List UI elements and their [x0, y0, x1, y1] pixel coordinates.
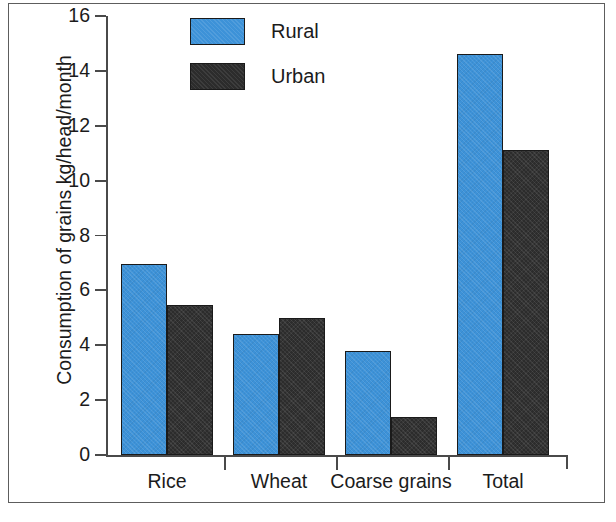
bar-rice-rural [121, 264, 167, 455]
y-axis-tick-mark [95, 454, 106, 456]
legend-swatch-rural [190, 18, 245, 45]
legend-item-urban: Urban [190, 58, 325, 94]
legend-item-rural: Rural [190, 13, 325, 49]
plot-area: 0246810121416 RiceWheatCoarse grainsTota… [0, 0, 616, 522]
legend-label-urban: Urban [271, 66, 325, 86]
x-axis-end-cap [566, 455, 568, 469]
bar-wheat-urban [279, 318, 325, 455]
x-axis-tick-mark [448, 456, 450, 470]
bar-total-rural [457, 54, 503, 455]
legend-swatch-urban [190, 63, 245, 90]
y-axis-tick-mark [95, 70, 106, 72]
y-axis-title: Consumption of grains kg/head/month [44, 0, 84, 440]
bar-coarse-grains-rural [345, 351, 391, 455]
figure-root: 0246810121416 RiceWheatCoarse grainsTota… [0, 0, 616, 522]
y-axis-tick-mark [95, 289, 106, 291]
y-axis-tick-mark [95, 344, 106, 346]
x-axis-tick-mark [336, 456, 338, 470]
bar-total-urban [503, 150, 549, 455]
y-axis-tick-mark [95, 125, 106, 127]
y-axis-tick-label: 0 [32, 445, 90, 465]
legend: RuralUrban [190, 13, 325, 103]
bar-coarse-grains-urban [391, 417, 437, 455]
y-axis-line [106, 16, 108, 456]
bar-wheat-rural [233, 334, 279, 455]
y-axis-tick-mark [95, 15, 106, 17]
x-axis-tick-mark [224, 456, 226, 470]
y-axis-tick-mark [95, 180, 106, 182]
y-axis-tick-mark [95, 235, 106, 237]
legend-label-rural: Rural [271, 21, 319, 41]
bar-rice-urban [167, 305, 213, 455]
y-axis-tick-mark [95, 399, 106, 401]
x-axis-category-label-total: Total [413, 472, 593, 492]
